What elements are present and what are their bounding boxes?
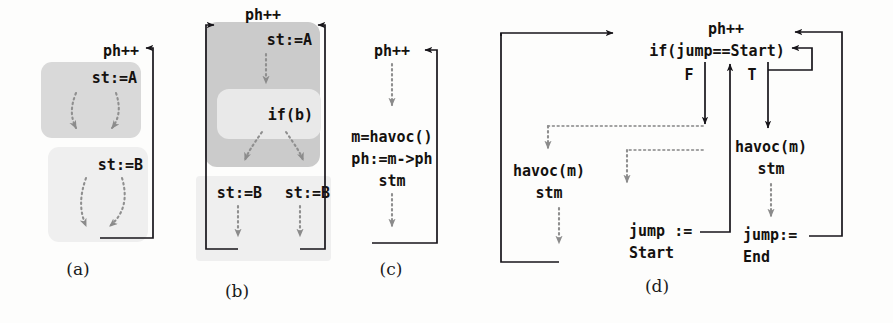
panel-d-caption: (d) — [645, 276, 669, 296]
panel-d-jump-start-line-1: jump := — [629, 222, 692, 240]
panel-c-body-line-1: m=havoc() — [351, 128, 432, 146]
panel-b-block-if-label: if(b) — [268, 106, 313, 124]
panel-d-left-block-line-2: stm — [535, 184, 562, 202]
panel-b-block-st-a-label: st:=A — [267, 31, 312, 49]
panel-a-loop-label: ph++ — [103, 42, 139, 60]
panel-d-jump-end-line-1: jump:= — [743, 226, 797, 244]
panel-c-loop-label: ph++ — [374, 42, 410, 60]
panel-b-block-st-b-right-label: st:=B — [285, 184, 330, 202]
panel-d-jump-end-line-2: End — [743, 248, 770, 266]
panel-a-block-st-a-label: st:=A — [92, 69, 137, 87]
figure-control-flow-panels: ph++ st:=A st:=B (a) ph++ st:=A if(b) st… — [0, 0, 893, 323]
panel-b-loop-label: ph++ — [245, 6, 281, 24]
panel-a-caption: (a) — [66, 259, 89, 279]
panel-d-right-block-line-1: havoc(m) — [735, 138, 807, 156]
panel-c-body-line-3: stm — [378, 172, 405, 190]
panel-a-block-st-b-label: st:=B — [98, 156, 143, 174]
panel-d-header-line-2: if(jump==Start) — [649, 42, 784, 60]
panel-b-block-st-b-left-label: st:=B — [217, 184, 262, 202]
panel-c-caption: (c) — [380, 259, 403, 279]
panel-b-caption: (b) — [225, 281, 249, 301]
panel-d-right-block-line-2: stm — [757, 160, 784, 178]
panel-d-branch-false-label: F — [684, 66, 693, 84]
panel-c-body-line-2: ph:=m->ph — [351, 150, 432, 168]
panel-d-header-line-1: ph++ — [708, 20, 744, 38]
panel-d-left-block-line-1: havoc(m) — [513, 162, 585, 180]
panel-b: ph++ st:=A if(b) st:=B st:=B (b) — [196, 6, 331, 301]
panel-d-branch-true-label: T — [747, 66, 756, 84]
panel-d-jump-start-line-2: Start — [629, 244, 674, 262]
